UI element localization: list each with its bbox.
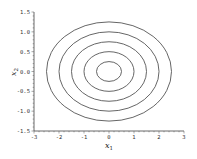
contour-plot: -3-2-10123-1.5-1.0-0.50.00.51.01.5 x1 x2 bbox=[0, 0, 197, 159]
contour-level-5 bbox=[47, 22, 172, 121]
x-tick-label: 0 bbox=[107, 134, 110, 140]
contour-level-2 bbox=[84, 52, 134, 92]
y-axis-title: x2 bbox=[9, 68, 19, 76]
y-tick-label: 0.0 bbox=[20, 69, 30, 75]
x-axis-title: x1 bbox=[105, 141, 113, 151]
x-tick-label: 2 bbox=[157, 134, 160, 140]
x-tick-label: -2 bbox=[56, 134, 63, 140]
contour-level-1 bbox=[97, 62, 122, 82]
y-tick-label: 1.0 bbox=[20, 29, 30, 35]
y-tick-label: 0.5 bbox=[20, 49, 30, 55]
y-tick-label: -1.5 bbox=[17, 128, 30, 134]
contour-level-3 bbox=[72, 42, 147, 102]
x-tick-label: 3 bbox=[182, 134, 185, 140]
contour-level-4 bbox=[59, 32, 159, 111]
x-tick-label: 1 bbox=[132, 134, 135, 140]
x-tick-label: -3 bbox=[31, 134, 38, 140]
x-tick-label: -1 bbox=[81, 134, 88, 140]
y-tick-label: -1.0 bbox=[17, 108, 30, 114]
y-tick-label: 1.5 bbox=[20, 9, 30, 15]
y-tick-label: -0.5 bbox=[17, 88, 30, 94]
contour-lines bbox=[47, 22, 172, 121]
